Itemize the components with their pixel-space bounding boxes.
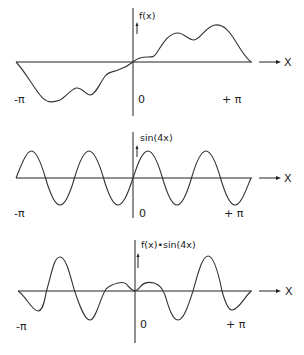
panel-product: f(x)•sin(4x) X -π 0 + π [16,239,293,343]
fourier-diagram: f(x) X -π 0 + π sin(4x) X -π 0 + π f(x)•… [0,0,304,355]
left-label-product: -π [16,320,27,333]
left-label-f: -π [14,93,25,106]
left-label-sin4x: -π [14,207,25,220]
panel-sin4x: sin(4x) X -π 0 + π [14,132,292,220]
right-label-sin4x: + π [224,207,244,220]
origin-label-product: 0 [140,318,147,331]
panel-f: f(x) X -π 0 + π [14,8,292,116]
right-label-product: + π [226,318,246,331]
ylabel-product: f(x)•sin(4x) [141,239,196,250]
x-arrow-head-icon [276,289,281,293]
xlabel-product: X [285,285,293,298]
xlabel-sin4x: X [284,172,292,185]
ylabel-sin4x: sin(4x) [140,132,173,143]
x-arrow-head-icon [276,60,281,64]
y-arrow-head-icon [137,253,140,257]
x-arrow-head-icon [276,176,281,180]
y-arrow-head-icon [136,145,139,149]
right-label-f: + π [222,93,242,106]
ylabel-f: f(x) [139,10,155,21]
xlabel-f: X [284,56,292,69]
origin-label-f: 0 [138,93,145,106]
y-arrow-head-icon [136,22,139,26]
origin-label-sin4x: 0 [139,207,146,220]
